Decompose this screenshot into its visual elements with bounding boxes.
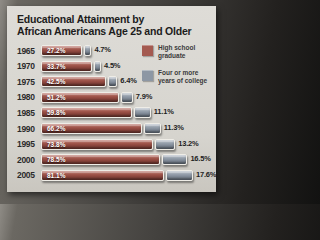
year-label: 1980: [17, 92, 41, 102]
year-label: 2005: [17, 170, 41, 180]
college-bar-segment: [134, 107, 151, 118]
high-school-bar-segment: 59.8%: [41, 107, 132, 118]
year-label: 1975: [17, 77, 41, 87]
bar-row-1975: 197542.5%6.4%: [17, 74, 210, 90]
bar-row-1995: 199573.8%13.2%: [17, 136, 210, 152]
college-value-label: 11.3%: [164, 123, 184, 134]
college-bar-segment: [84, 45, 91, 56]
high-school-value-label: 51.2%: [42, 94, 65, 101]
bar-row-1985: 198559.8%11.1%: [17, 105, 210, 121]
bar-row-1980: 198051.2%7.9%: [17, 90, 210, 106]
bar-row-1965: 196527.2%4.7%: [17, 43, 210, 59]
year-label: 1995: [17, 139, 41, 149]
bar-row-2005: 200581.1%17.6%: [17, 168, 210, 184]
bar-track: 73.8%13.2%: [41, 139, 210, 150]
year-label: 1990: [17, 124, 41, 134]
high-school-bar-segment: 73.8%: [41, 139, 153, 150]
high-school-bar-segment: 81.1%: [41, 170, 164, 181]
bar-track: 78.5%16.5%: [41, 154, 211, 165]
college-bar-segment: [94, 61, 101, 72]
high-school-value-label: 78.5%: [42, 156, 65, 163]
college-value-label: 13.2%: [178, 139, 198, 150]
high-school-value-label: 33.7%: [42, 63, 65, 70]
high-school-bar-segment: 66.2%: [41, 123, 142, 134]
year-label: 1965: [17, 46, 41, 56]
bar-chart: 196527.2%4.7%197033.7%4.5%197542.5%6.4%1…: [17, 43, 210, 183]
high-school-value-label: 42.5%: [42, 78, 65, 85]
bar-track: 59.8%11.1%: [41, 107, 210, 118]
bar-track: 27.2%4.7%: [41, 45, 210, 56]
college-value-label: 6.4%: [120, 76, 136, 87]
college-bar-segment: [108, 76, 118, 87]
high-school-value-label: 59.8%: [42, 109, 65, 116]
bar-row-1970: 197033.7%4.5%: [17, 58, 210, 74]
high-school-bar-segment: 51.2%: [41, 92, 119, 103]
college-bar-segment: [155, 139, 175, 150]
bar-track: 81.1%17.6%: [41, 170, 216, 181]
high-school-bar-segment: 33.7%: [41, 61, 92, 72]
bar-row-2000: 200078.5%16.5%: [17, 152, 210, 168]
bar-row-1990: 199066.2%11.3%: [17, 121, 210, 137]
college-value-label: 17.6%: [196, 170, 216, 181]
year-label: 1970: [17, 61, 41, 71]
college-value-label: 7.9%: [136, 92, 152, 103]
college-value-label: 16.5%: [190, 154, 210, 165]
high-school-bar-segment: 42.5%: [41, 76, 106, 87]
year-label: 1985: [17, 108, 41, 118]
college-bar-segment: [121, 92, 133, 103]
chart-title: Educational Attainment by African Americ…: [17, 13, 210, 38]
college-bar-segment: [144, 123, 161, 134]
high-school-value-label: 27.2%: [42, 47, 65, 54]
high-school-bar-segment: 78.5%: [41, 154, 160, 165]
bar-track: 66.2%11.3%: [41, 123, 210, 134]
chart-title-line2: African Americans Age 25 and Older: [17, 25, 210, 37]
year-label: 2000: [17, 155, 41, 165]
high-school-value-label: 73.8%: [42, 141, 65, 148]
high-school-value-label: 81.1%: [42, 172, 65, 179]
college-value-label: 4.5%: [104, 61, 120, 72]
chart-title-line1: Educational Attainment by: [17, 13, 210, 25]
high-school-bar-segment: 27.2%: [41, 45, 82, 56]
college-bar-segment: [162, 154, 187, 165]
high-school-value-label: 66.2%: [42, 125, 65, 132]
college-value-label: 11.1%: [154, 107, 174, 118]
bar-track: 42.5%6.4%: [41, 76, 210, 87]
bar-track: 33.7%4.5%: [41, 61, 210, 72]
photo-background: Educational Attainment by African Americ…: [0, 0, 232, 204]
bar-track: 51.2%7.9%: [41, 92, 210, 103]
chart-card: Educational Attainment by African Americ…: [7, 6, 216, 192]
college-value-label: 4.7%: [94, 45, 110, 56]
college-bar-segment: [166, 170, 193, 181]
